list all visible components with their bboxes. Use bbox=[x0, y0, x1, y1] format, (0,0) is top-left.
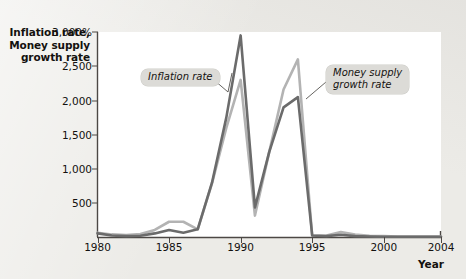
y-tick-mark bbox=[92, 169, 98, 170]
leader-line-money bbox=[306, 82, 326, 99]
x-tick-label: 1985 bbox=[139, 241, 199, 253]
y-tick-label: 1,000 bbox=[22, 164, 92, 175]
x-tick-label: 2000 bbox=[354, 241, 414, 253]
y-tick-mark bbox=[92, 203, 98, 204]
y-tick-label: 500 bbox=[22, 198, 92, 209]
y-tick-label: 1,500 bbox=[22, 129, 92, 140]
x-tick-label: 1995 bbox=[282, 241, 342, 253]
y-tick-mark bbox=[92, 32, 98, 33]
y-tick-label: 2,500 bbox=[22, 61, 92, 72]
x-tick-label: 1980 bbox=[68, 241, 128, 253]
x-axis-title: Year bbox=[400, 258, 462, 270]
x-tick-label: 1990 bbox=[211, 241, 271, 253]
x-tick-label: 2004 bbox=[411, 241, 466, 253]
y-tick-label: 2,000 bbox=[22, 95, 92, 106]
y-tick-mark bbox=[92, 66, 98, 67]
annotation-money-supply-growth-rate: Money supply growth rate bbox=[326, 65, 409, 94]
y-tick-mark bbox=[92, 134, 98, 135]
y-tick-mark bbox=[92, 100, 98, 101]
annotation-inflation-rate: Inflation rate bbox=[141, 69, 220, 86]
y-tick-label: 3,000% bbox=[22, 27, 92, 38]
chart-figure: Inflation rate, Money supply growth rate… bbox=[0, 0, 466, 279]
